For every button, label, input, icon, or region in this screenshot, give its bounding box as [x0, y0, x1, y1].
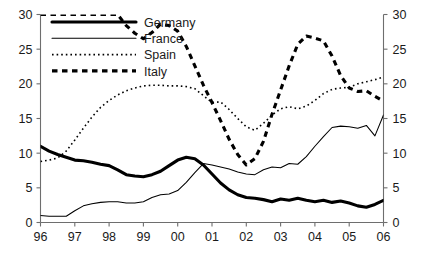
x-tick-label: 00 [171, 230, 185, 244]
x-tick-label: 03 [274, 230, 288, 244]
y-tick-label-left: 10 [19, 147, 33, 161]
line-chart: 0055101015152020252530309697989900010203… [0, 0, 423, 254]
legend-label-france: France [144, 32, 183, 46]
series-line-spain [41, 77, 384, 162]
legend-label-germany: Germany [144, 16, 196, 30]
x-tick-label: 06 [377, 230, 391, 244]
legend-label-spain: Spain [144, 48, 176, 62]
axes [37, 15, 388, 227]
x-tick-label: 99 [136, 230, 150, 244]
y-tick-label-right: 15 [393, 112, 407, 126]
series-line-germany [41, 146, 384, 207]
y-tick-label-right: 5 [393, 181, 400, 195]
tick-labels: 0055101015152020252530309697989900010203… [19, 8, 407, 244]
y-tick-label-left: 20 [19, 77, 33, 91]
y-tick-label-left: 5 [26, 181, 33, 195]
y-tick-label-right: 30 [393, 8, 407, 22]
y-tick-label-left: 25 [19, 43, 33, 57]
series-lines [41, 15, 384, 217]
legend-label-italy: Italy [144, 65, 168, 79]
y-tick-label-right: 0 [393, 216, 400, 230]
y-tick-label-right: 25 [393, 43, 407, 57]
x-tick-label: 97 [68, 230, 82, 244]
x-tick-label: 05 [342, 230, 356, 244]
x-tick-label: 02 [239, 230, 253, 244]
x-tick-label: 96 [34, 230, 48, 244]
x-tick-label: 98 [102, 230, 116, 244]
chart-legend: GermanyFranceSpainItaly [52, 16, 196, 79]
y-tick-label-right: 10 [393, 147, 407, 161]
y-tick-label-right: 20 [393, 77, 407, 91]
chart-canvas: 0055101015152020252530309697989900010203… [0, 0, 423, 254]
y-tick-label-left: 30 [19, 8, 33, 22]
y-tick-label-left: 15 [19, 112, 33, 126]
x-tick-label: 01 [205, 230, 219, 244]
x-tick-label: 04 [308, 230, 322, 244]
y-tick-label-left: 0 [26, 216, 33, 230]
